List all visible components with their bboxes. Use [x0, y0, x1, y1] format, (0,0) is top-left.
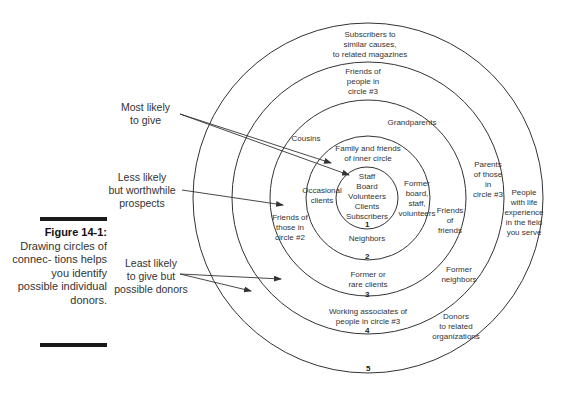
caption-top-bar [40, 217, 107, 221]
circle-5-number: 5 [366, 364, 370, 373]
figure-label: Figure 14-1: [45, 226, 107, 238]
circle-2-neighbors: Neighbors [342, 234, 392, 244]
circle-2-occasional-clients: Occasional clients [302, 186, 342, 206]
circle-4-parents: Parents of those in circle #3 [471, 160, 505, 200]
circle-3-cousins: Cousins [286, 134, 326, 144]
caption-bottom-bar [40, 343, 107, 347]
circle-3-grandparents: Grandparents [384, 118, 440, 128]
arrow-most-likely-1 [180, 114, 349, 175]
circle-3-number: 3 [365, 290, 369, 299]
circle-5-donors-related-orgs: Donors to related organizations [432, 312, 480, 342]
circle-4-working-associates: Working associates of people in circle #… [328, 307, 408, 327]
circle-1-members: Staff Board Volunteers Clients Subscribe… [338, 172, 396, 222]
circle-3-friends-of-friends: Friends of friends [434, 206, 466, 236]
figure-caption: Figure 14-1: Drawing circles of connec- … [10, 226, 107, 307]
circle-4-friends-of-circle-3: Friends of people in circle #3 [338, 67, 388, 97]
circle-3-former-clients: Former or rare clients [340, 270, 396, 290]
circle-2-number: 2 [365, 252, 369, 261]
figure-caption-text: Drawing circles of connec- tions helps y… [12, 240, 107, 306]
circle-5-subscribers: Subscribers to similar causes, to relate… [330, 30, 410, 60]
circle-2-family: Family and friends of inner circle [330, 144, 406, 164]
arrow-least-likely-1 [180, 274, 281, 279]
callout-most-likely: Most likely to give [108, 101, 183, 127]
callout-least-likely: Least likely to give but possible donors [110, 257, 192, 296]
circle-4-number: 4 [365, 326, 369, 335]
callout-less-likely: Less likely but worthwhile prospects [100, 171, 184, 210]
circle-1-number: 1 [365, 220, 369, 229]
circle-4-former-neighbors: Former neighbors [440, 265, 478, 285]
circle-3-friends-of-circle-2: Friends of those in circle #2 [270, 213, 310, 243]
circle-5-people-with-experience: People with life experience in the field… [504, 188, 544, 238]
